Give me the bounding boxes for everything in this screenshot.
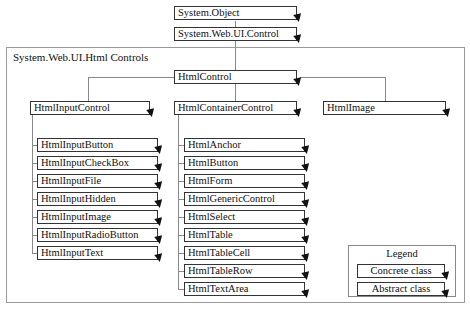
class-label: HtmlInputButton xyxy=(41,139,113,150)
abstract-marker-icon xyxy=(293,108,302,117)
abstract-marker-icon xyxy=(301,181,310,190)
class-label: HtmlInputRadioButton xyxy=(41,229,138,240)
class-htmlinputhidden: HtmlInputHidden xyxy=(37,192,158,206)
legend-label: Concrete class xyxy=(371,265,432,276)
abstract-marker-icon xyxy=(301,271,310,280)
legend-label: Abstract class xyxy=(372,283,431,294)
class-htmlanchor: HtmlAnchor xyxy=(184,138,305,152)
legend-title: Legend xyxy=(348,248,456,259)
class-htmlgenericcontrol: HtmlGenericControl xyxy=(184,192,305,206)
class-htmlinputcontrol: HtmlInputControl xyxy=(30,101,150,115)
class-label: HtmlTableRow xyxy=(188,265,253,276)
abstract-marker-icon xyxy=(301,145,310,154)
class-htmlform: HtmlForm xyxy=(184,174,305,188)
class-label: HtmlContainerControl xyxy=(178,102,273,113)
abstract-marker-icon xyxy=(301,217,310,226)
class-htmltablerow: HtmlTableRow xyxy=(184,264,305,278)
class-htmlinputfile: HtmlInputFile xyxy=(37,174,158,188)
class-htmlinputimage: HtmlInputImage xyxy=(37,210,158,224)
namespace-title: System.Web.UI.Html Controls xyxy=(13,51,148,63)
class-htmlinputradiobutton: HtmlInputRadioButton xyxy=(37,228,158,242)
class-label: HtmlSelect xyxy=(188,211,235,222)
abstract-marker-icon xyxy=(301,289,310,298)
abstract-marker-icon xyxy=(154,181,163,190)
class-htmlbutton: HtmlButton xyxy=(184,156,305,170)
abstract-marker-icon xyxy=(154,235,163,244)
class-label: System.Web.UI.Control xyxy=(178,28,279,39)
class-htmltable: HtmlTable xyxy=(184,228,305,242)
class-label: HtmlInputImage xyxy=(41,211,111,222)
class-label: HtmlInputHidden xyxy=(41,193,116,204)
class-htmlinputtext: HtmlInputText xyxy=(37,246,158,260)
class-htmlcontrol: HtmlControl xyxy=(174,70,297,84)
abstract-marker-icon xyxy=(293,13,302,22)
abstract-marker-icon xyxy=(154,145,163,154)
abstract-marker-icon xyxy=(154,253,163,262)
class-htmlinputbutton: HtmlInputButton xyxy=(37,138,158,152)
abstract-marker-icon xyxy=(301,199,310,208)
legend-abstract-class: Abstract class xyxy=(357,282,445,296)
class-htmlimage: HtmlImage xyxy=(323,101,446,115)
legend-concrete-class: Concrete class xyxy=(357,264,445,278)
abstract-marker-icon xyxy=(293,34,302,43)
abstract-marker-icon xyxy=(293,77,302,86)
class-label: HtmlImage xyxy=(327,102,375,113)
class-label: HtmlTable xyxy=(188,229,233,240)
class-label: HtmlControl xyxy=(178,71,232,82)
class-label: HtmlAnchor xyxy=(188,139,241,150)
class-htmltablecell: HtmlTableCell xyxy=(184,246,305,260)
class-htmlselect: HtmlSelect xyxy=(184,210,305,224)
abstract-marker-icon xyxy=(301,235,310,244)
class-label: HtmlTableCell xyxy=(188,247,250,258)
abstract-marker-icon xyxy=(441,271,450,280)
class-label: HtmlButton xyxy=(188,157,238,168)
class-label: HtmlInputFile xyxy=(41,175,101,186)
class-htmlcontainercontrol: HtmlContainerControl xyxy=(174,101,297,115)
abstract-marker-icon xyxy=(154,217,163,226)
abstract-marker-icon xyxy=(146,108,155,117)
abstract-marker-icon xyxy=(442,108,451,117)
abstract-marker-icon xyxy=(301,253,310,262)
abstract-marker-icon xyxy=(301,163,310,172)
abstract-marker-icon xyxy=(154,199,163,208)
class-label: HtmlGenericControl xyxy=(188,193,275,204)
class-label: HtmlInputText xyxy=(41,247,103,258)
class-label: HtmlForm xyxy=(188,175,232,186)
class-system-object: System.Object xyxy=(174,6,297,20)
abstract-marker-icon xyxy=(154,163,163,172)
abstract-marker-icon xyxy=(441,289,450,298)
class-htmlinputcheckbox: HtmlInputCheckBox xyxy=(37,156,158,170)
class-system-web-ui-control: System.Web.UI.Control xyxy=(174,27,297,41)
class-label: HtmlInputCheckBox xyxy=(41,157,129,168)
class-htmltextarea: HtmlTextArea xyxy=(184,282,305,296)
class-label: System.Object xyxy=(178,7,240,18)
class-label: HtmlTextArea xyxy=(188,283,249,294)
class-label: HtmlInputControl xyxy=(34,102,110,113)
